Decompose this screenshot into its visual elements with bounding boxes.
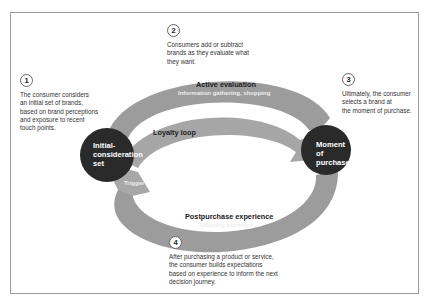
initial-line-1: Initial- (93, 141, 143, 150)
moment-line-2: of (316, 149, 350, 158)
step-2-number: 2 (167, 24, 180, 37)
step-3-number: 3 (342, 73, 355, 86)
step-4-note: 4 After purchasing a product or service,… (169, 236, 278, 286)
step-2-line: brands as they evaluate what (167, 49, 249, 57)
active-evaluation-title: Active evaluation (196, 80, 256, 89)
postpurchase-subtitle: Ongoing exposure (200, 222, 253, 228)
step-2-line: Consumers add or subtract (167, 41, 249, 49)
initial-line-2: consideration (93, 150, 143, 159)
initial-line-3: set (93, 159, 143, 168)
moment-node-label: Moment of purchase (316, 140, 350, 167)
postpurchase-title: Postpurchase experience (185, 212, 273, 221)
step-3-line: selects a brand at (342, 98, 412, 106)
step-1-note: 1 The consumer considers an initial set … (20, 74, 98, 132)
step-4-line: decision journey. (169, 278, 278, 286)
moment-line-1: Moment (316, 140, 350, 149)
initial-node-label: Initial- consideration set (93, 141, 143, 168)
step-1-number: 1 (20, 74, 33, 87)
loyalty-loop-title: Loyalty loop (153, 128, 196, 137)
step-1-line: and exposure to recent (20, 116, 98, 124)
step-4-line: based on experience to inform the next (169, 270, 278, 278)
step-2-line: they want. (167, 58, 249, 66)
step-4-line: After purchasing a product or service, (169, 253, 278, 261)
step-1-line: touch points. (20, 124, 98, 132)
step-2-note: 2 Consumers add or subtract brands as th… (167, 24, 249, 66)
step-3-note: 3 Ultimately, the consumer selects a bra… (342, 73, 412, 115)
step-3-line: Ultimately, the consumer (342, 90, 412, 98)
trigger-label: Trigger (124, 180, 144, 186)
loyalty-loop-arc (122, 117, 310, 168)
step-1-line: based on brand perceptions (20, 108, 98, 116)
step-1-line: an initial set of brands, (20, 99, 98, 107)
moment-line-3: purchase (316, 158, 350, 167)
step-1-line: The consumer considers (20, 91, 98, 99)
step-4-line: the consumer builds expectations (169, 261, 278, 269)
active-evaluation-subtitle: Information gathering, shopping (178, 90, 270, 96)
step-4-number: 4 (169, 236, 182, 249)
step-3-line: the moment of purchase. (342, 107, 412, 115)
